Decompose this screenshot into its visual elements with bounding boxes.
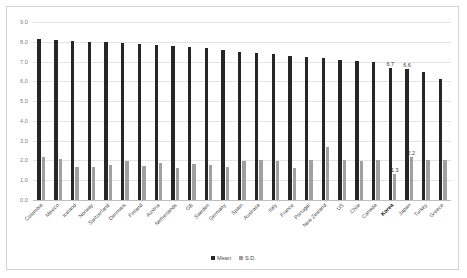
x-axis-label: Greece [434, 200, 451, 248]
y-axis-tick-label: 1.0 [20, 177, 28, 183]
y-axis-tick-label: 8.0 [20, 39, 28, 45]
legend-label: Mean [217, 255, 231, 261]
y-axis-tick-label: 5.0 [20, 98, 28, 104]
bar-mean [238, 52, 241, 200]
bar-group [367, 22, 384, 200]
y-axis-tick-label: 3.0 [20, 138, 28, 144]
legend-label: S.D. [245, 255, 256, 261]
bar-mean [88, 42, 91, 200]
bar-group [50, 22, 67, 200]
legend-item: S.D. [239, 255, 256, 261]
bar-group [334, 22, 351, 200]
bar-group [66, 22, 83, 200]
bar-group [250, 22, 267, 200]
bar-group [183, 22, 200, 200]
x-axis-label: Denmark [117, 200, 134, 248]
bar-group [317, 22, 334, 200]
bar-mean [439, 79, 442, 200]
x-axis-label: Finland [133, 200, 150, 248]
bar-series-container: 6.71.36.62.2 [33, 22, 451, 200]
bar-group [284, 22, 301, 200]
bar-mean [138, 44, 141, 200]
bar-group [133, 22, 150, 200]
bar-mean [322, 58, 325, 200]
y-axis-tick-label: 7.0 [20, 59, 28, 65]
x-axis-label: Sweden [200, 200, 217, 248]
x-axis-labels: ColombiaMexicoIcelandNorwaySwitzerlandDe… [33, 200, 451, 248]
bar-sd [242, 161, 245, 200]
bar-sd [192, 164, 195, 200]
bar-sd [159, 163, 162, 200]
x-axis-label: Spain [234, 200, 251, 248]
bar-mean [155, 45, 158, 200]
bar-mean [37, 39, 40, 200]
x-axis-label: New Zealand [317, 200, 334, 248]
bar-group: 6.71.3 [384, 22, 401, 200]
x-axis-label: US [334, 200, 351, 248]
x-axis-label: Chile [351, 200, 368, 248]
bar-group [117, 22, 134, 200]
bar-mean [54, 40, 57, 200]
x-axis-label: Turkey [418, 200, 435, 248]
bar-group [83, 22, 100, 200]
plot-area: 9.08.07.06.05.04.03.02.01.00.0 6.71.36.6… [33, 22, 451, 200]
x-axis-label: Italy [267, 200, 284, 248]
bar-sd [109, 165, 112, 200]
bar-mean [104, 42, 107, 200]
legend-swatch [211, 256, 215, 260]
bar-sd [360, 161, 363, 200]
bar-group [33, 22, 50, 200]
chart-legend: MeanS.D. [0, 255, 467, 261]
bar-group [434, 22, 451, 200]
bar-mean [205, 48, 208, 200]
bar-data-label: 1.3 [391, 167, 399, 173]
bar-sd [309, 160, 312, 200]
bar-sd [59, 159, 62, 200]
bar-mean [288, 56, 291, 200]
bar-group [301, 22, 318, 200]
bar-group [100, 22, 117, 200]
bar-sd [343, 160, 346, 200]
bar-mean: 6.6 [405, 69, 408, 200]
x-axis-label: Japan [401, 200, 418, 248]
bar-sd [226, 167, 229, 200]
x-axis-label: Iceland [66, 200, 83, 248]
bar-sd [42, 157, 45, 200]
y-axis-tick-label: 6.0 [20, 78, 28, 84]
x-axis-label: Switzerland [100, 200, 117, 248]
x-axis-label: Korea [384, 200, 401, 248]
x-axis-label-text: GB [184, 202, 194, 212]
bar-mean [121, 43, 124, 200]
bar-sd [92, 167, 95, 200]
x-axis-label: GB [183, 200, 200, 248]
bar-group [234, 22, 251, 200]
x-axis-label: Colombia [33, 200, 50, 248]
x-axis-label-text: US [335, 202, 344, 211]
y-axis-tick-label: 2.0 [20, 157, 28, 163]
bar-sd [259, 160, 262, 200]
bar-sd [293, 168, 296, 200]
bar-sd [125, 161, 128, 200]
bar-group [200, 22, 217, 200]
bar-mean [355, 61, 358, 200]
bar-sd [276, 161, 279, 200]
bar-sd [426, 160, 429, 200]
y-axis-tick-label: 0.0 [20, 197, 28, 203]
bar-sd [75, 167, 78, 200]
x-axis-label: France [284, 200, 301, 248]
bar-data-label: 2.2 [408, 150, 416, 156]
legend-item: Mean [211, 255, 231, 261]
bar-mean [71, 41, 74, 200]
bar-sd [326, 147, 329, 200]
bar-sd: 1.3 [393, 174, 396, 200]
y-axis-tick-label: 9.0 [20, 19, 28, 25]
x-axis-label: Australia [250, 200, 267, 248]
bar-sd [443, 160, 446, 200]
x-axis-label: Germany [217, 200, 234, 248]
bar-mean [372, 62, 375, 200]
bar-group [217, 22, 234, 200]
bar-mean [422, 72, 425, 200]
bar-data-label: 6.7 [387, 61, 395, 67]
bar-mean [188, 47, 191, 200]
x-axis-label: Canada [367, 200, 384, 248]
